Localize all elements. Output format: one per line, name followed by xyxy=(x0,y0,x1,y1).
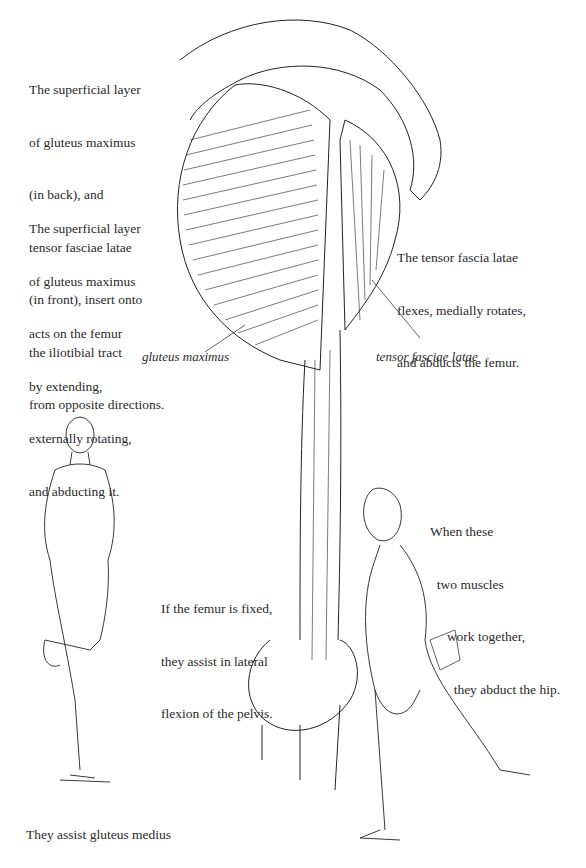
caption-line: of gluteus maximus xyxy=(29,273,141,291)
caption-one-foot: They assist gluteus medius in maintainin… xyxy=(26,791,240,868)
tensor-fasciae-latae-outline xyxy=(340,120,400,330)
label-tensor-fasciae-latae: tensor fasciae latae xyxy=(376,349,478,365)
caption-line: two muscles xyxy=(430,576,560,594)
caption-line: The superficial layer xyxy=(29,81,164,99)
caption-line: If the femur is fixed, xyxy=(161,600,273,618)
caption-femur-fixed: If the femur is fixed, they assist in la… xyxy=(161,565,273,740)
caption-line: and abducting it. xyxy=(29,483,141,501)
caption-line: The tensor fascia latae xyxy=(397,249,526,267)
caption-line: they assist in lateral xyxy=(161,653,273,671)
caption-line: acts on the femur xyxy=(29,325,141,343)
leader-gmax xyxy=(205,325,245,352)
caption-line: work together, xyxy=(430,628,560,646)
caption-line: The superficial layer xyxy=(29,220,141,238)
caption-line: flexes, medially rotates, xyxy=(397,302,526,320)
caption-line: they abduct the hip. xyxy=(430,681,560,699)
label-gluteus-maximus: gluteus maximus xyxy=(142,349,229,365)
caption-line: They assist gluteus medius xyxy=(26,826,240,844)
caption-line: of gluteus maximus xyxy=(29,134,164,152)
caption-line: by extending, xyxy=(29,378,141,396)
gluteus-maximus-fibers xyxy=(183,110,318,345)
pelvis-outline xyxy=(180,20,441,200)
caption-gmax-action: The superficial layer of gluteus maximus… xyxy=(29,185,141,518)
caption-together: When these two muscles work together, th… xyxy=(430,488,560,716)
caption-line: When these xyxy=(430,523,560,541)
iliotibial-tract xyxy=(300,330,341,640)
caption-line: flexion of the pelvis. xyxy=(161,705,273,723)
caption-line: externally rotating, xyxy=(29,430,141,448)
